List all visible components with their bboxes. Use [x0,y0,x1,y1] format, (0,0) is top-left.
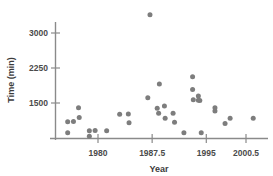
data-point [155,106,160,111]
chart-canvas: 150022503000 19801987.519952000.5 Year T… [0,0,273,176]
data-points-layer [65,12,256,138]
x-axis-ticks: 19801987.519952000.5 [89,134,260,158]
data-point [251,116,256,121]
data-point [162,104,167,109]
data-point [190,87,195,92]
data-point [71,119,76,124]
data-point [212,108,217,113]
data-point [181,130,186,135]
data-point [163,116,168,121]
y-tick-label: 1500 [29,98,48,108]
data-point [223,121,228,126]
data-point [197,98,202,103]
x-tick-label: 1980 [89,148,108,158]
x-tick-label: 1995 [197,148,216,158]
data-point [172,120,177,125]
data-point [171,111,176,116]
plot-area: 150022503000 19801987.519952000.5 Year T… [0,0,273,176]
data-point [147,12,152,17]
data-point [104,128,109,133]
data-point [190,74,195,79]
data-point [228,116,233,121]
y-tick-label: 3000 [29,28,48,38]
data-point [77,115,82,120]
data-point [65,119,70,124]
data-point [87,128,92,133]
data-point [65,130,70,135]
data-point [76,105,81,110]
y-axis-title: Time (min) [6,57,16,102]
data-point [191,97,196,102]
data-point [157,82,162,87]
y-tick-label: 2250 [29,63,48,73]
data-point [93,128,98,133]
data-point [117,112,122,117]
data-point [126,111,131,116]
data-point [87,134,92,139]
data-point [199,130,204,135]
x-tick-label: 2000.5 [233,148,259,158]
x-axis-title: Year [149,164,169,174]
data-point [156,111,161,116]
data-point [145,95,150,100]
data-point [127,120,132,125]
scatter-chart: 150022503000 19801987.519952000.5 Year T… [0,0,273,176]
x-tick-label: 1987.5 [139,148,165,158]
